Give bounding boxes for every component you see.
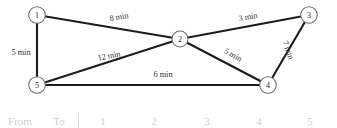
node-1-label: 1 [35,11,39,20]
table-cell-from: From [0,115,40,127]
node-circles [29,7,318,94]
diagram-page: 1 2 3 4 5 8 min 5 min 12 min 3 min 5 min… [0,0,337,128]
table-cell-4: 4 [233,115,285,127]
network-graph: 1 2 3 4 5 8 min 5 min 12 min 3 min 5 min… [0,0,337,128]
edge-label-2-4: 5 min [222,46,244,64]
table-row: From To 1 2 3 4 5 [0,113,337,128]
table-cell-5: 5 [285,115,335,127]
edge-label-1-2: 8 min [109,11,130,23]
edge-lines [37,15,309,85]
node-5-label: 5 [35,81,39,90]
clipped-table-row: From To 1 2 3 4 5 [0,113,337,128]
table-cell-1: 1 [79,115,127,127]
edge-2-4 [180,39,268,85]
node-2-label: 2 [178,35,182,44]
edge-label-1-5: 5 min [11,48,31,57]
table-cell-2: 2 [127,115,181,127]
table-cell-3: 3 [181,115,233,127]
node-3-label: 3 [307,11,311,20]
edge-1-2 [37,15,180,39]
table-cell-to: To [40,115,78,127]
edge-labels: 8 min 5 min 12 min 3 min 5 min 7 min 6 m… [11,11,295,79]
edge-label-5-4: 6 min [153,70,173,79]
edge-label-2-3: 3 min [238,11,259,23]
node-4-label: 4 [266,81,270,90]
